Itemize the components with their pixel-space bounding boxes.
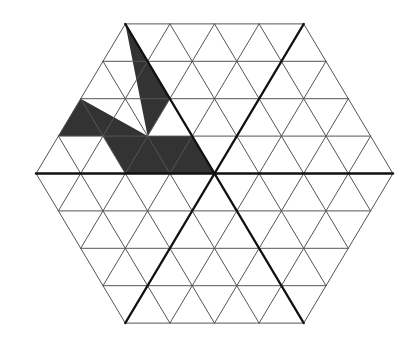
main-diagonals [36,24,393,323]
shaded-sliver [125,24,170,136]
grid-line [259,24,371,211]
grid-line [103,61,259,323]
grid-line [170,61,326,323]
grid-line [259,136,371,323]
hexagon-triangle-grid-diagram [0,0,419,342]
